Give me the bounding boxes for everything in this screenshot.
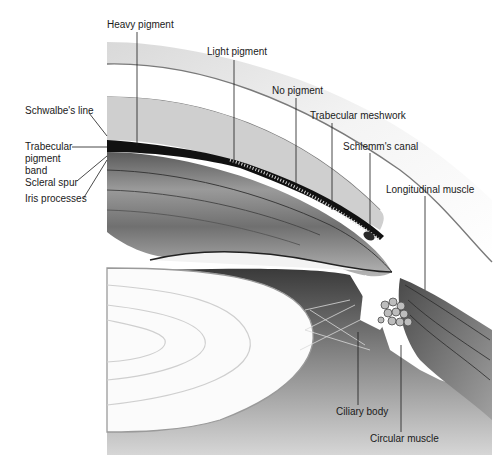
label-no-pigment: No pigment	[272, 85, 323, 97]
eye-angle-illustration	[0, 0, 499, 468]
label-ciliary-body: Ciliary body	[336, 406, 388, 418]
label-circular-muscle: Circular muscle	[370, 433, 439, 445]
label-longitudinal-muscle: Longitudinal muscle	[386, 184, 474, 196]
label-scleral-spur: Scleral spur	[25, 177, 78, 189]
label-heavy-pigment: Heavy pigment	[107, 19, 174, 31]
label-light-pigment: Light pigment	[207, 46, 267, 58]
label-trabecular-pigment-band: Trabecular pigment band	[25, 141, 72, 177]
label-schwalbes-line: Schwalbe's line	[25, 105, 94, 117]
label-trabecular-meshwork: Trabecular meshwork	[310, 110, 406, 122]
label-schlemms-canal: Schlemm's canal	[343, 141, 418, 153]
label-iris-processes: Iris processes	[25, 193, 87, 205]
